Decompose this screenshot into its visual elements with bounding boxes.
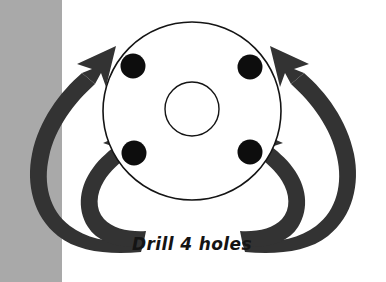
bolt-hole-top-left xyxy=(121,54,146,79)
flange-bore-circle xyxy=(165,82,219,136)
diagram-canvas: Drill 4 holes xyxy=(0,0,386,282)
bolt-hole-top-right xyxy=(238,55,263,80)
bolt-hole-bottom-left xyxy=(122,141,147,166)
annotation-label: Drill 4 holes xyxy=(132,234,252,254)
drill-holes-diagram: Drill 4 holes xyxy=(0,0,386,282)
bolt-hole-bottom-right xyxy=(238,140,263,165)
